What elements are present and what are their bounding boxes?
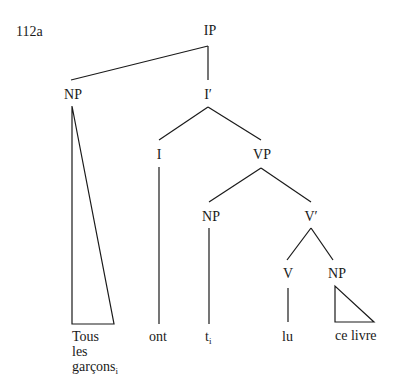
np-object-triangle <box>335 286 374 322</box>
trace-index: i <box>209 336 212 346</box>
leaf-subject-line2: les <box>72 344 118 359</box>
node-i-bar: I′ <box>204 87 212 103</box>
branch-vp-np <box>209 168 261 202</box>
leaf-aux: ont <box>149 329 167 344</box>
leaf-object: ce livre <box>335 328 377 343</box>
subject-word: garçons <box>72 359 116 374</box>
node-np-spec-vp: NP <box>202 209 220 225</box>
subject-index: i <box>116 366 119 376</box>
branch-vbar-np <box>311 228 333 260</box>
node-np-subject: NP <box>64 87 82 103</box>
branch-ip-np <box>71 46 208 80</box>
node-v-bar: V′ <box>304 209 317 225</box>
leaf-subject: Tous les garçonsi <box>72 329 118 374</box>
leaf-subject-line3: garçonsi <box>72 359 118 374</box>
node-v: V <box>283 266 293 282</box>
branch-ibar-i <box>159 107 208 140</box>
branch-vp-vbar <box>261 168 311 202</box>
leaf-subject-line1: Tous <box>72 329 118 344</box>
branch-ibar-vp <box>208 107 261 140</box>
node-ip: IP <box>204 23 216 39</box>
node-vp: VP <box>253 147 271 163</box>
np-subject-triangle <box>72 106 114 324</box>
leaf-trace: ti <box>205 329 211 344</box>
tree-branches <box>0 0 394 379</box>
node-np-object: NP <box>328 266 346 282</box>
leaf-verb: lu <box>282 329 293 344</box>
node-i: I <box>157 147 162 163</box>
branch-vbar-v <box>287 228 311 260</box>
